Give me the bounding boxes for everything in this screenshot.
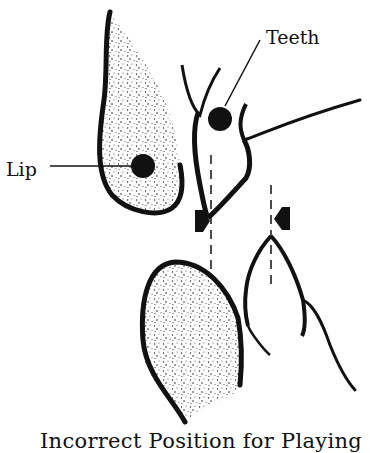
right-arrow-icon <box>274 207 290 230</box>
pressure-arrows <box>195 207 290 232</box>
teeth-label: Teeth <box>266 28 320 47</box>
diagram-caption: Incorrect Position for Playing <box>40 431 362 452</box>
lip-label: Lip <box>6 160 37 179</box>
teeth-leader-line <box>225 40 260 106</box>
upper-lip <box>50 12 182 213</box>
lower-lip <box>142 262 242 422</box>
lower-teeth <box>245 236 355 390</box>
teeth-marker <box>208 107 232 131</box>
lip-marker <box>131 154 155 178</box>
